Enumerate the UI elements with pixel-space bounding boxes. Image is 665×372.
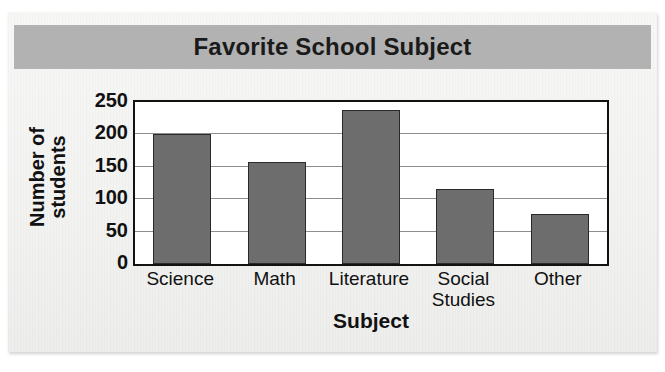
plot-area bbox=[133, 100, 609, 266]
x-tick-label: Science bbox=[146, 268, 214, 289]
x-tick-label-line: Science bbox=[146, 268, 214, 289]
chart-body: Number of students 050100150200250 Scien… bbox=[8, 69, 657, 352]
y-tick-label-0: 0 bbox=[117, 251, 128, 274]
x-tick-label-line: Studies bbox=[432, 289, 495, 310]
bar bbox=[436, 189, 494, 264]
y-axis-title-line-1: Number of bbox=[27, 127, 48, 227]
bar bbox=[153, 134, 211, 264]
y-tick-label-50: 50 bbox=[106, 218, 128, 241]
x-tick-label-line: Math bbox=[253, 268, 295, 289]
bars-layer bbox=[135, 102, 607, 264]
x-tick-label-line: Literature bbox=[329, 268, 409, 289]
y-axis-title-line-2: students bbox=[48, 127, 69, 227]
chart-title: Favorite School Subject bbox=[194, 33, 472, 61]
x-tick-label: SocialStudies bbox=[432, 268, 495, 311]
y-tick-label-250: 250 bbox=[95, 89, 128, 112]
y-axis-title-text: Number of students bbox=[27, 127, 69, 227]
y-tick-label-150: 150 bbox=[95, 153, 128, 176]
x-tick-label-line: Other bbox=[534, 268, 582, 289]
x-tick-label-line: Social bbox=[432, 268, 495, 289]
y-axis-title: Number of students bbox=[16, 91, 80, 263]
bar bbox=[531, 214, 589, 264]
x-tick-label: Math bbox=[253, 268, 295, 289]
x-tick-label: Other bbox=[534, 268, 582, 289]
bar bbox=[342, 110, 400, 264]
y-tick-label-200: 200 bbox=[95, 121, 128, 144]
chart-title-band: Favorite School Subject bbox=[14, 25, 651, 69]
figure-card: Favorite School Subject Number of studen… bbox=[8, 12, 657, 352]
bar bbox=[248, 162, 306, 264]
y-tick-label-100: 100 bbox=[95, 186, 128, 209]
x-axis-title: Subject bbox=[133, 309, 609, 333]
y-axis-tick-labels: 050100150200250 bbox=[80, 91, 132, 263]
x-tick-label: Literature bbox=[329, 268, 409, 289]
